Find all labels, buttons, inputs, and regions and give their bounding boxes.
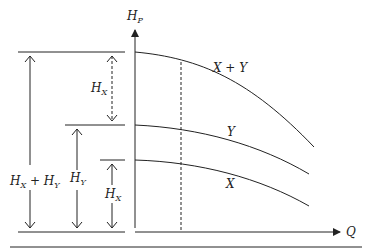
dimension-hx-bottom: HX [104, 164, 121, 228]
x-axis-label: Q [346, 225, 356, 239]
curve-x [135, 160, 309, 206]
curve-y [135, 125, 309, 174]
dimension-hy: HY [69, 129, 86, 228]
pump-curves-diagram: HP Q X + Y Y X HX + HY HX HY [0, 0, 367, 252]
svg-text:HY: HY [69, 171, 86, 187]
svg-text:HX + HY: HX + HY [9, 174, 60, 190]
svg-text:HX: HX [104, 187, 121, 203]
y-axis-label: HP [126, 9, 143, 25]
dimension-total: HX + HY [9, 56, 60, 228]
curve-label-y: Y [227, 125, 236, 139]
dimension-hx-top: HX [90, 56, 117, 121]
svg-text:HX: HX [90, 81, 107, 97]
curve-label-x-plus-y: X + Y [212, 61, 248, 75]
curve-label-x: X [225, 177, 235, 191]
